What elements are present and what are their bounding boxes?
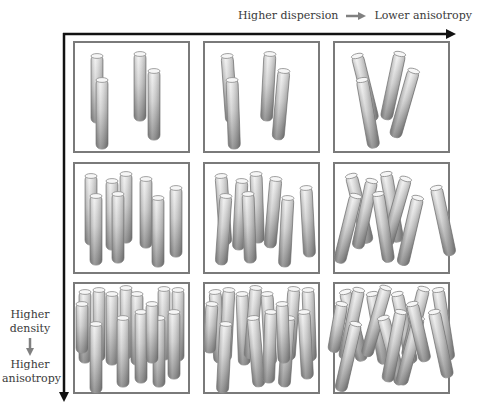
rod [170, 186, 182, 257]
rod [242, 191, 256, 263]
rod [300, 185, 316, 257]
rod-group-r1c1 [91, 52, 160, 149]
rod [96, 78, 108, 149]
rod [276, 301, 290, 363]
rod-grid-diagram [0, 0, 478, 420]
rod [152, 196, 164, 267]
rod [262, 309, 277, 383]
rod [226, 77, 240, 149]
rod [168, 310, 180, 379]
rod-group-r2c2 [215, 171, 316, 267]
rod-group-r3c2 [203, 285, 316, 393]
rod-group-r2c3 [333, 171, 456, 267]
rod [430, 184, 457, 256]
rod [135, 310, 147, 383]
rod [148, 69, 160, 140]
rod [260, 51, 276, 121]
rod [203, 301, 218, 353]
vertical-axis [59, 33, 69, 402]
rod [278, 195, 294, 267]
horizontal-axis [63, 29, 456, 39]
rod [76, 302, 88, 353]
rod [117, 316, 129, 387]
rods [76, 50, 456, 393]
rod [140, 177, 152, 248]
rod [264, 176, 282, 248]
rod [134, 52, 146, 121]
rod [106, 292, 118, 365]
rod [90, 322, 102, 393]
rod-group-r1c3 [351, 50, 420, 149]
rod [90, 194, 102, 265]
rod-group-r3c1 [76, 286, 184, 393]
rod-group-r2c1 [85, 172, 182, 267]
rod-group-r3c3 [327, 284, 455, 393]
rod [146, 302, 158, 363]
rod-group-r1c2 [221, 51, 290, 149]
rod [112, 192, 124, 263]
